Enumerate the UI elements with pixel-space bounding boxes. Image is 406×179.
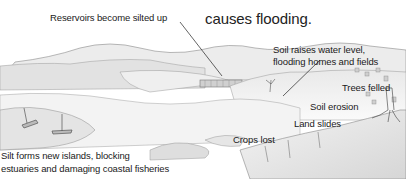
label-soil-erosion: Soil erosion xyxy=(310,101,358,112)
label-soil-water-2: flooding homes and fields xyxy=(273,56,378,67)
heading-partial xyxy=(203,0,207,6)
label-soil-water-1: Soil raises water level, xyxy=(273,44,365,55)
label-land-slides: Land slides xyxy=(294,118,341,129)
label-reservoirs: Reservoirs become silted up xyxy=(50,12,167,23)
label-crops-lost: Crops lost xyxy=(233,134,275,145)
label-trees-felled: Trees felled xyxy=(342,82,390,93)
label-silt-2: estuaries and damaging coastal fisheries xyxy=(1,163,169,174)
silt-islands xyxy=(150,143,209,160)
heading-text: causes flooding. xyxy=(205,10,312,27)
label-silt-1: Silt forms new islands, blocking xyxy=(1,150,130,161)
